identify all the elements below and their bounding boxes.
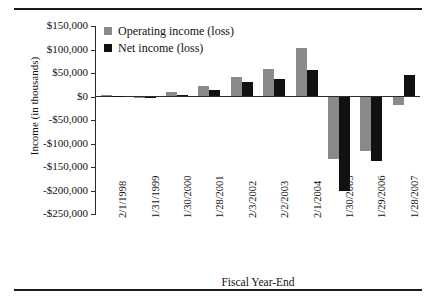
x-axis-tick-label: 1/28/2001 [214, 144, 225, 218]
y-axis-tick-label: $150,000 [2, 20, 88, 31]
y-axis-tick-label: -$100,000 [2, 138, 88, 149]
bar-operating-income [198, 86, 209, 96]
x-axis-tick-label: 1/30/2000 [182, 144, 193, 218]
y-axis-tick-label: -$50,000 [2, 114, 88, 125]
bar-net-income [145, 97, 156, 98]
legend-item-operating-income: Operating income (loss) [104, 22, 234, 39]
legend-label-net: Net income (loss) [118, 42, 203, 54]
bar-net-income [274, 79, 285, 96]
bar-operating-income [360, 97, 371, 151]
bar-operating-income [296, 48, 307, 97]
x-axis-tick-label: 1/30/2005 [344, 144, 355, 218]
x-axis-tick-label: 2/3/2002 [247, 144, 258, 218]
figure-top-rule [14, 8, 422, 10]
bar-operating-income [393, 97, 404, 105]
figure: $150,000$100,000$50,000$0-$50,000-$100,0… [0, 0, 436, 307]
legend-label-operating: Operating income (loss) [118, 25, 234, 37]
x-axis-tick-label: 2/1/2004 [312, 144, 323, 218]
x-axis-tick-label: 2/1/1998 [117, 144, 128, 218]
y-axis-tick [91, 214, 96, 215]
legend-item-net-income: Net income (loss) [104, 39, 234, 56]
bar-operating-income [166, 92, 177, 96]
bar-net-income [242, 82, 253, 96]
bar-net-income [307, 70, 318, 97]
y-axis-tick-label: $0 [2, 91, 88, 102]
y-axis-title: Income (in thousands) [28, 26, 40, 186]
y-axis-tick-label: $50,000 [2, 67, 88, 78]
figure-bottom-rule [14, 289, 422, 291]
y-axis-tick-label: -$250,000 [2, 208, 88, 219]
x-axis-tick-label: 1/29/2006 [376, 144, 387, 218]
x-axis-tick-label: 1/31/1999 [150, 144, 161, 218]
bar-net-income [177, 95, 188, 97]
bar-operating-income [231, 77, 242, 97]
y-axis-tick-label: -$200,000 [2, 185, 88, 196]
bar-net-income [404, 75, 415, 96]
bar-operating-income [328, 97, 339, 160]
bar-operating-income [101, 95, 112, 96]
x-axis-title: Fiscal Year-End [96, 276, 420, 288]
x-axis-tick-label: 1/28/2007 [409, 144, 420, 218]
y-axis-tick-label: $100,000 [2, 44, 88, 55]
bar-net-income [209, 90, 220, 97]
chart-legend: Operating income (loss) Net income (loss… [104, 22, 234, 56]
bar-operating-income [134, 97, 145, 98]
legend-swatch-icon-net [104, 44, 112, 52]
y-axis-tick-label: -$150,000 [2, 161, 88, 172]
x-axis-tick-label: 2/2/2003 [279, 144, 290, 218]
bar-operating-income [263, 69, 274, 96]
legend-swatch-icon-operating [104, 27, 112, 35]
bar-net-income [112, 96, 123, 97]
